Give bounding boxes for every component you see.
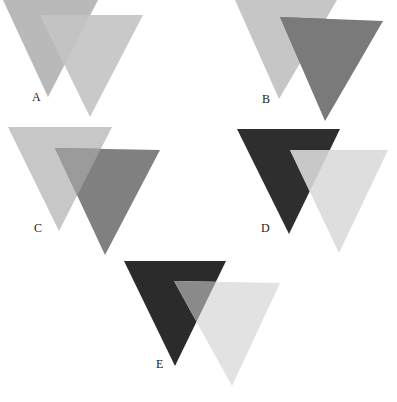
panel-label: B xyxy=(262,92,270,106)
panel-label: D xyxy=(261,221,270,235)
panel-label: E xyxy=(156,357,163,371)
panel-e: E xyxy=(124,261,280,386)
triangle-transparency-figure: ABCDE xyxy=(0,0,397,402)
panel-d: D xyxy=(237,129,388,253)
panel-a: A xyxy=(3,0,143,117)
panel-b: B xyxy=(235,0,383,121)
panel-c: C xyxy=(8,127,160,255)
panel-label: A xyxy=(32,90,41,104)
panel-label: C xyxy=(34,221,42,235)
